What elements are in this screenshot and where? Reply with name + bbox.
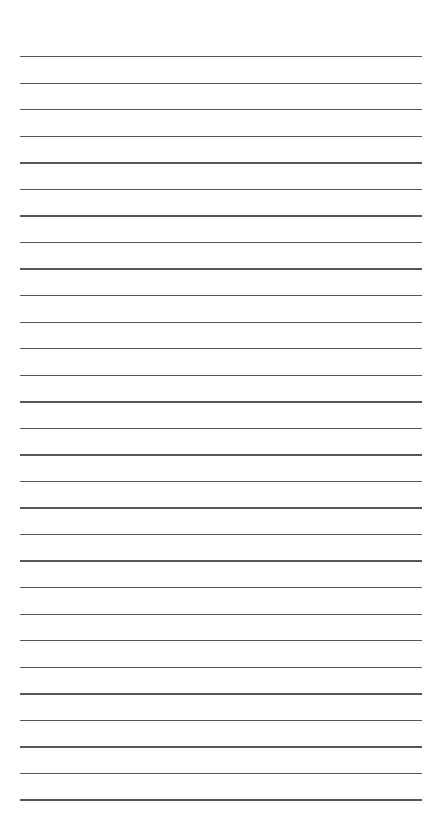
ruled-line — [20, 428, 422, 429]
ruled-line — [20, 587, 422, 588]
ruled-line — [20, 83, 422, 84]
ruled-line — [20, 348, 422, 349]
ruled-line — [20, 375, 422, 376]
ruled-line — [20, 481, 422, 482]
ruled-line — [20, 640, 422, 641]
ruled-line — [20, 746, 422, 747]
ruled-line — [20, 667, 422, 668]
ruled-line — [20, 693, 422, 694]
ruled-line — [20, 56, 422, 57]
ruled-line — [20, 322, 422, 323]
ruled-line — [20, 109, 422, 110]
ruled-line — [20, 720, 422, 721]
ruled-line — [20, 454, 422, 455]
ruled-line — [20, 189, 422, 190]
ruled-line — [20, 534, 422, 535]
ruled-line — [20, 560, 422, 561]
ruled-line — [20, 799, 422, 800]
lined-paper-page — [0, 0, 444, 834]
ruled-line — [20, 136, 422, 137]
ruled-line — [20, 215, 422, 216]
ruled-line — [20, 242, 422, 243]
ruled-line — [20, 614, 422, 615]
ruled-line — [20, 773, 422, 774]
ruled-line — [20, 401, 422, 402]
ruled-line — [20, 295, 422, 296]
ruled-line — [20, 507, 422, 508]
ruled-line — [20, 268, 422, 269]
ruled-line — [20, 162, 422, 163]
